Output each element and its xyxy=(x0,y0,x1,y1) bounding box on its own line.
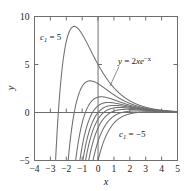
annotation-particular-exponent: −x xyxy=(144,55,152,62)
annotation-particular-text: y = 2xe−x xyxy=(117,55,152,66)
annotation-c1-top-rest: = 5 xyxy=(47,32,62,42)
annotation-c1-bottom: c1 = −5 xyxy=(119,129,146,140)
y-axis-title: y xyxy=(5,85,16,91)
y-tick-label: −5 xyxy=(19,156,29,166)
x-tick-label: −2 xyxy=(61,164,71,174)
annotation-c1-top: c1 = 5 xyxy=(40,32,62,43)
x-tick-label: 1 xyxy=(112,164,117,174)
x-tick-label: 2 xyxy=(127,164,132,174)
solution-curves xyxy=(56,26,178,160)
annotation-particular-var: xe xyxy=(135,56,144,66)
annotation-particular-solution: y = 2xe−x xyxy=(110,55,152,86)
y-tick-label: 5 xyxy=(25,60,30,70)
x-tick-labels: −4−3−2−1012345 xyxy=(29,164,180,174)
y-tick-label: 0 xyxy=(25,108,30,118)
x-tick-label: −1 xyxy=(77,164,87,174)
x-tick-label: 5 xyxy=(175,164,180,174)
annotation-leader-line xyxy=(110,67,119,87)
curve-c1-5 xyxy=(56,26,178,159)
x-tick-label: −4 xyxy=(29,164,39,174)
annotation-c1-bottom-rest: = −5 xyxy=(126,129,146,139)
figure-container: −4−3−2−1012345 −50510 x y c1 = 5 c1 = −5… xyxy=(0,0,193,191)
y-tick-label: 10 xyxy=(20,12,30,22)
x-tick-label: 4 xyxy=(159,164,164,174)
solution-curves-chart: −4−3−2−1012345 −50510 x y c1 = 5 c1 = −5… xyxy=(0,0,193,191)
x-tick-label: 0 xyxy=(96,164,101,174)
x-axis-title: x xyxy=(103,176,109,187)
annotation-particular-eq: = 2 xyxy=(122,56,136,66)
x-tick-label: −3 xyxy=(45,164,55,174)
y-tick-labels: −50510 xyxy=(19,12,29,166)
x-tick-label: 3 xyxy=(143,164,148,174)
